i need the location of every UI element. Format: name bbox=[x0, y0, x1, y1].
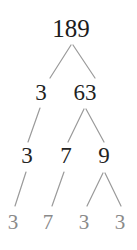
edge-63-to-9 bbox=[86, 109, 104, 142]
tree-node-7-l2-1: 7 bbox=[60, 144, 72, 167]
factor-tree-diagram: 1893633793733 bbox=[0, 0, 137, 250]
tree-node-9-l2-2: 9 bbox=[98, 144, 110, 167]
tree-node-3-l3-3: 3 bbox=[115, 212, 126, 233]
edge-189-to-3 bbox=[50, 45, 71, 78]
tree-node-3-l1-0: 3 bbox=[35, 81, 47, 104]
edge-9-to-3-right bbox=[105, 173, 121, 206]
edge-9-to-3-left bbox=[87, 173, 103, 206]
edge-63-to-7 bbox=[68, 109, 84, 142]
edge-7-to-7-leaf bbox=[52, 172, 64, 206]
tree-node-189-l0-0: 189 bbox=[52, 16, 90, 41]
tree-node-7-l3-1: 7 bbox=[43, 212, 54, 233]
tree-node-63-l1-1: 63 bbox=[74, 81, 97, 104]
edge-189-to-63 bbox=[73, 45, 95, 78]
edge-3-to-3-leaf bbox=[15, 172, 26, 206]
tree-node-3-l3-0: 3 bbox=[8, 212, 19, 233]
edge-3-to-3 bbox=[28, 108, 40, 142]
tree-node-3-l2-0: 3 bbox=[21, 144, 33, 167]
tree-node-3-l3-2: 3 bbox=[79, 212, 90, 233]
